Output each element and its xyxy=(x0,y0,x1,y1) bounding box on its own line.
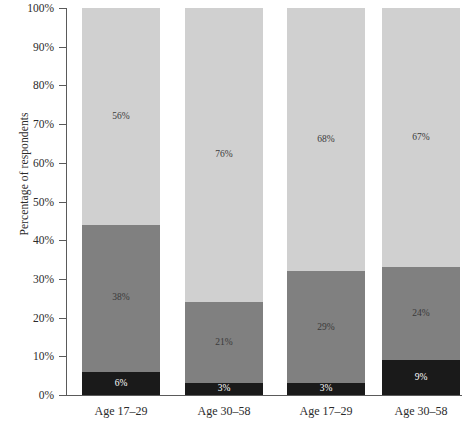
segment-value-label: 67% xyxy=(412,133,429,143)
segment-value-label: 3% xyxy=(218,384,231,394)
bar-segment-dark[interactable]: 6% xyxy=(82,372,160,395)
segment-value-label: 9% xyxy=(415,373,428,383)
segment-value-label: 38% xyxy=(112,293,129,303)
bar-segment-medium[interactable]: 24% xyxy=(382,267,460,360)
bar-segment-light[interactable]: 76% xyxy=(185,8,263,302)
segment-value-label: 29% xyxy=(317,323,334,333)
bar-segment-light[interactable]: 67% xyxy=(382,8,460,267)
segment-value-label: 68% xyxy=(317,135,334,145)
bar-stack[interactable]: 67%24%9% xyxy=(382,8,460,395)
x-axis-category-label: Age 17–29 xyxy=(82,404,160,419)
segment-value-label: 21% xyxy=(215,338,232,348)
bar-stack[interactable]: 68%29%3% xyxy=(287,8,365,395)
plot-area: 56%38%6%76%21%3%68%29%3%67%24%9% xyxy=(0,0,463,424)
segment-value-label: 76% xyxy=(215,150,232,160)
bar-segment-medium[interactable]: 38% xyxy=(82,225,160,372)
bar-segment-dark[interactable]: 3% xyxy=(185,383,263,395)
segment-value-label: 56% xyxy=(112,112,129,122)
segment-value-label: 3% xyxy=(320,384,333,394)
x-axis-category-label: Age 30–58 xyxy=(185,404,263,419)
stacked-bar-chart: Percentage of respondents 0%10%20%30%40%… xyxy=(0,0,463,424)
x-axis-category-label: Age 30–58 xyxy=(382,404,460,419)
bar-stack[interactable]: 76%21%3% xyxy=(185,8,263,395)
segment-value-label: 24% xyxy=(412,309,429,319)
bar-segment-dark[interactable]: 3% xyxy=(287,383,365,395)
bar-segment-light[interactable]: 56% xyxy=(82,8,160,225)
bar-stack[interactable]: 56%38%6% xyxy=(82,8,160,395)
bar-segment-light[interactable]: 68% xyxy=(287,8,365,271)
bar-segment-dark[interactable]: 9% xyxy=(382,360,460,395)
bar-segment-medium[interactable]: 21% xyxy=(185,302,263,383)
segment-value-label: 6% xyxy=(115,379,128,389)
x-axis-category-label: Age 17–29 xyxy=(287,404,365,419)
bar-segment-medium[interactable]: 29% xyxy=(287,271,365,383)
